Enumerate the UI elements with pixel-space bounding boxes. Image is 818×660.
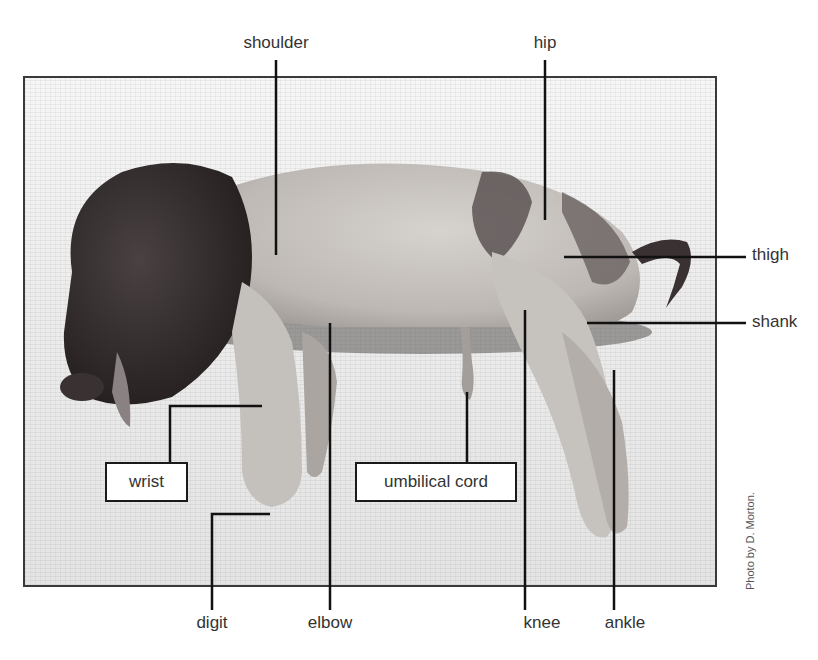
pig-tail (632, 240, 691, 308)
label-umbilical-cord-box: umbilical cord (355, 462, 517, 502)
label-thigh: thigh (752, 246, 789, 263)
pig-illustration (25, 78, 717, 587)
label-wrist-box: wrist (105, 462, 188, 502)
label-shoulder: shoulder (243, 34, 308, 51)
label-umbilical-cord: umbilical cord (384, 472, 488, 492)
label-digit: digit (196, 614, 227, 631)
photo-credit: Photo by D. Morton. (744, 492, 756, 590)
label-shank: shank (752, 313, 797, 330)
front-leg-far (302, 332, 337, 477)
label-hip: hip (534, 34, 557, 51)
pig-snout (60, 373, 104, 401)
pig-head (64, 163, 252, 404)
label-knee: knee (524, 614, 561, 631)
label-wrist: wrist (129, 472, 164, 492)
label-elbow: elbow (308, 614, 352, 631)
label-ankle: ankle (605, 614, 646, 631)
pig-photograph (23, 76, 717, 587)
